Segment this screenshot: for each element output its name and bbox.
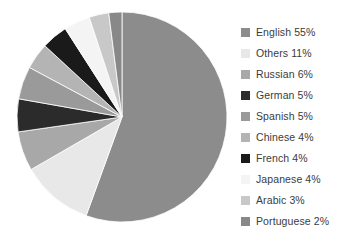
legend-swatch-icon (241, 154, 250, 163)
legend-item-label: Others 11% (256, 48, 312, 59)
legend-swatch-icon (241, 91, 250, 100)
legend-item-label: English 55% (256, 27, 315, 38)
legend-swatch-icon (241, 49, 250, 58)
legend-swatch-icon (241, 133, 250, 142)
legend-item[interactable]: Spanish 5% (241, 106, 343, 127)
legend-swatch-icon (241, 112, 250, 121)
pie-svg (0, 0, 240, 233)
legend-swatch-icon (241, 70, 250, 79)
legend-item[interactable]: Japanese 4% (241, 169, 343, 190)
pie-chart-figure: English 55%Others 11%Russian 6%German 5%… (0, 0, 343, 233)
legend-item-label: German 5% (256, 90, 313, 101)
legend-swatch-icon (241, 217, 250, 226)
legend-item-label: Spanish 5% (256, 111, 313, 122)
legend-item[interactable]: English 55% (241, 22, 343, 43)
legend-item[interactable]: French 4% (241, 148, 343, 169)
legend-item[interactable]: Russian 6% (241, 64, 343, 85)
legend-item-label: Japanese 4% (256, 174, 321, 185)
legend-swatch-icon (241, 28, 250, 37)
legend-item-label: French 4% (256, 153, 308, 164)
legend-item[interactable]: German 5% (241, 85, 343, 106)
chart-legend: English 55%Others 11%Russian 6%German 5%… (241, 22, 343, 232)
pie-chart-graphic (0, 0, 240, 233)
legend-item-label: Arabic 3% (256, 195, 305, 206)
legend-swatch-icon (241, 175, 250, 184)
legend-item-label: Portuguese 2% (256, 216, 329, 227)
legend-item[interactable]: Others 11% (241, 43, 343, 64)
legend-item-label: Russian 6% (256, 69, 313, 80)
legend-swatch-icon (241, 196, 250, 205)
legend-item[interactable]: Chinese 4% (241, 127, 343, 148)
legend-item[interactable]: Portuguese 2% (241, 211, 343, 232)
legend-item[interactable]: Arabic 3% (241, 190, 343, 211)
legend-item-label: Chinese 4% (256, 132, 314, 143)
